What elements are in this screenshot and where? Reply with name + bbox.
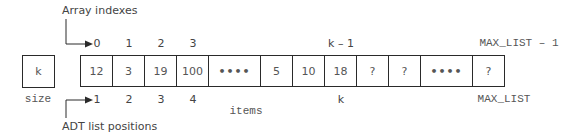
array-cell: 5 (260, 55, 293, 87)
index-label: 3 (190, 37, 197, 50)
adt-positions-arrow (66, 100, 86, 118)
array-cell: 10 (292, 55, 325, 87)
index-label: 1 (126, 37, 133, 50)
adt-positions-arrowhead (85, 97, 93, 104)
position-label: 3 (158, 93, 165, 106)
position-label-max: MAX_LIST (478, 93, 531, 105)
array-cell: 100 (176, 55, 209, 87)
cell-value: 18 (334, 65, 348, 78)
array-cell: 3 (112, 55, 145, 87)
cell-value: 19 (154, 65, 168, 78)
size-label: size (25, 93, 51, 105)
array-cell: ? (472, 55, 505, 87)
cell-value: 12 (90, 65, 104, 78)
array-indexes-arrow (66, 19, 86, 44)
array-indexes-arrowhead (85, 41, 93, 48)
index-label-max: MAX_LIST – 1 (479, 37, 558, 49)
cell-value: ? (370, 65, 376, 78)
array-indexes-label: Array indexes (62, 4, 137, 17)
position-label: 1 (94, 93, 101, 106)
cell-value: 10 (302, 65, 316, 78)
array-cell: 18 (324, 55, 357, 87)
index-label: 0 (94, 37, 101, 50)
size-value: k (35, 65, 41, 78)
index-label: k – 1 (328, 37, 354, 50)
ellipsis-cell: •••• (208, 55, 261, 87)
cell-value: 3 (125, 65, 132, 78)
position-label: k (338, 93, 344, 106)
items-label: items (229, 105, 262, 117)
index-label: 2 (158, 37, 165, 50)
size-box: k (22, 55, 55, 88)
position-label: 2 (126, 93, 133, 106)
position-label: 4 (190, 93, 197, 106)
ellipsis-cell: •••• (420, 55, 473, 87)
cell-value: •••• (430, 65, 462, 78)
cell-value: 5 (273, 65, 280, 78)
array-cell: 12 (80, 55, 113, 87)
cell-value: 100 (182, 65, 203, 78)
array-cell: ? (388, 55, 421, 87)
cell-value: ? (402, 65, 408, 78)
array-cell: 19 (144, 55, 177, 87)
array-cell: ? (356, 55, 389, 87)
cell-value: ? (486, 65, 492, 78)
cell-value: •••• (218, 65, 250, 78)
adt-list-positions-label: ADT list positions (62, 120, 157, 133)
